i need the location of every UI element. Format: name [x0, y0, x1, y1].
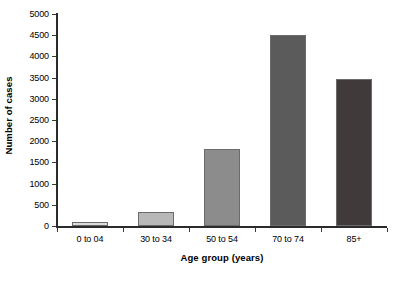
x-axis-tick-label: 50 to 54	[206, 234, 238, 245]
x-axis-tick-mark	[255, 228, 256, 232]
y-axis-tick-label: 4000	[29, 52, 49, 61]
y-axis-title-text: Number of cases	[3, 76, 14, 154]
y-axis-tick-labels: 0500100015002000250030003500400045005000	[16, 14, 52, 226]
y-axis-tick-label: 1500	[29, 158, 49, 167]
x-axis-tick-mark	[189, 228, 190, 232]
bar-0-to-04	[72, 222, 109, 226]
y-axis-tick-label: 2000	[29, 137, 49, 146]
x-axis-tick-label: 30 to 34	[140, 234, 172, 245]
x-axis-tick-mark	[123, 228, 124, 232]
x-axis-title: Age group (years)	[57, 252, 387, 263]
x-axis-tick-labels: 0 to 0430 to 3450 to 5470 to 7485+	[57, 234, 387, 248]
plot-area	[57, 14, 387, 226]
y-axis-tick-label: 3500	[29, 73, 49, 82]
bar-chart-figure: Number of cases 050010001500200025003000…	[0, 0, 395, 282]
y-axis-title: Number of cases	[0, 0, 16, 230]
x-axis-tick-label: 0 to 04	[77, 234, 104, 245]
x-axis-tick-mark	[57, 228, 58, 232]
y-axis-tick-label: 1000	[29, 179, 49, 188]
x-axis-tick-label: 85+	[347, 234, 362, 245]
y-axis-tick-label: 5000	[29, 10, 49, 19]
y-axis-tick-label: 500	[34, 200, 49, 209]
x-axis-tick-label: 70 to 74	[272, 234, 304, 245]
y-axis-tick-label: 0	[44, 222, 49, 231]
x-axis-tick-mark	[387, 228, 388, 232]
x-axis-line	[56, 226, 387, 228]
bar-30-to-34	[138, 212, 175, 226]
bar-70-to-74	[270, 35, 307, 226]
y-axis-tick-label: 2500	[29, 116, 49, 125]
bar-85plus	[336, 79, 373, 226]
bar-50-to-54	[204, 149, 241, 226]
x-axis-tick-mark	[321, 228, 322, 232]
y-axis-tick-label: 4500	[29, 31, 49, 40]
y-axis-tick-label: 3000	[29, 94, 49, 103]
